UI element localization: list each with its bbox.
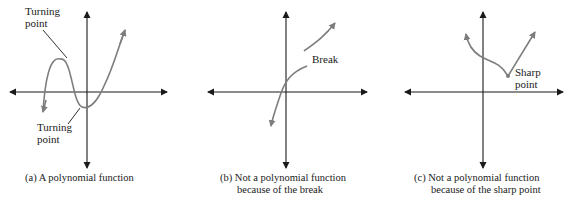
turning-point-leader-upper: [43, 30, 67, 58]
annotation-line: Turning: [37, 121, 72, 133]
caption-b: (b) Not a polynomial function because of…: [220, 172, 346, 196]
panel-c-graph: [405, 12, 563, 168]
caption-line: (c) Not a polynomial function: [414, 172, 541, 184]
annotation-line: Sharp: [515, 66, 541, 78]
annotation-turning-point-lower: Turning point: [37, 121, 72, 145]
annotation-line: point: [25, 17, 60, 29]
caption-c: (c) Not a polynomial function because of…: [414, 172, 541, 196]
sharp-point-marker: [506, 74, 510, 78]
panel-c-left-branch: [466, 34, 508, 76]
annotation-turning-point-upper: Turning point: [25, 5, 60, 29]
caption-line: (a) A polynomial function: [25, 172, 134, 184]
annotation-line: point: [515, 78, 541, 90]
panel-a-graph: [10, 12, 167, 168]
caption-a: (a) A polynomial function: [25, 172, 134, 184]
annotation-line: Turning: [25, 5, 60, 17]
panel-b-graph: [208, 12, 367, 168]
panel-c-axes: [405, 12, 563, 168]
annotation-line: point: [37, 133, 72, 145]
annotation-sharp-point: Sharp point: [515, 66, 541, 90]
panel-b-axes: [208, 12, 367, 168]
panel-a-polynomial-curve: [43, 30, 125, 112]
caption-line: because of the break: [220, 184, 346, 196]
annotation-line: Break: [312, 53, 338, 65]
caption-line: (b) Not a polynomial function: [220, 172, 346, 184]
annotation-break: Break: [312, 53, 338, 65]
panel-a-axes: [10, 12, 167, 168]
panel-b-upper-branch: [304, 23, 335, 51]
caption-line: because of the sharp point: [414, 184, 541, 196]
panel-b-lower-branch: [271, 66, 307, 126]
